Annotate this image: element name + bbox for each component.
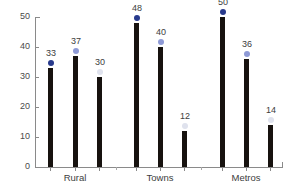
bar-value-label: 40 [150, 28, 172, 37]
y-axis-tick [35, 137, 39, 138]
y-axis-tick [35, 47, 39, 48]
bar-value-label: 33 [40, 49, 62, 58]
bar[interactable] [73, 56, 78, 167]
bar-marker-dot [182, 123, 188, 129]
y-axis-tick [35, 167, 39, 168]
y-axis-tick-label: 0 [0, 162, 30, 171]
bar-marker-dot [73, 48, 79, 54]
bar-value-label: 30 [89, 58, 111, 67]
y-axis-tick [35, 17, 39, 18]
bar[interactable] [48, 68, 53, 167]
x-axis-tick [270, 167, 271, 171]
bar-chart: 50403020100 333730484012503614 RuralTown… [0, 0, 299, 195]
bar-value-label: 14 [260, 106, 282, 115]
x-axis-group-separator-tick [201, 167, 202, 170]
bar-value-label: 48 [126, 4, 148, 13]
bar-marker-dot [268, 117, 274, 123]
bar[interactable] [97, 77, 102, 167]
bar[interactable] [158, 47, 163, 167]
bar-marker-dot [134, 15, 140, 21]
y-axis-tick [35, 77, 39, 78]
x-axis-tick [222, 167, 223, 171]
x-axis-tick [50, 167, 51, 171]
x-axis-group-label: Towns [130, 173, 190, 183]
bar-value-label: 50 [212, 0, 234, 7]
bar-value-label: 36 [236, 40, 258, 49]
y-axis-tick-label: 10 [0, 132, 30, 141]
x-axis-group-label: Metros [216, 173, 276, 183]
bar-marker-dot [158, 39, 164, 45]
y-axis-tick-label: 20 [0, 102, 30, 111]
x-axis-tick [246, 167, 247, 171]
x-axis-tick [160, 167, 161, 171]
bar-marker-dot [48, 60, 54, 66]
x-axis-tick [75, 167, 76, 171]
x-axis-tick [136, 167, 137, 171]
bar[interactable] [244, 59, 249, 167]
x-axis-right-cap [282, 162, 283, 167]
bar-marker-dot [97, 69, 103, 75]
bar[interactable] [182, 131, 187, 167]
y-axis-tick-label: 30 [0, 72, 30, 81]
y-axis-tick-label: 40 [0, 42, 30, 51]
bar-value-label: 12 [174, 112, 196, 121]
y-axis-tick-label: 50 [0, 12, 30, 21]
bar-marker-dot [244, 51, 250, 57]
y-axis-line [35, 17, 36, 167]
x-axis-tick [184, 167, 185, 171]
bar-value-label: 37 [65, 37, 87, 46]
bar[interactable] [134, 23, 139, 167]
y-axis-tick [35, 107, 39, 108]
bar[interactable] [268, 125, 273, 167]
x-axis-tick [99, 167, 100, 171]
bar-marker-dot [220, 9, 226, 15]
x-axis-group-separator-tick [116, 167, 117, 170]
bar[interactable] [220, 17, 225, 167]
plot-area: 50403020100 333730484012503614 RuralTown… [0, 0, 299, 195]
x-axis-group-label: Rural [45, 173, 105, 183]
